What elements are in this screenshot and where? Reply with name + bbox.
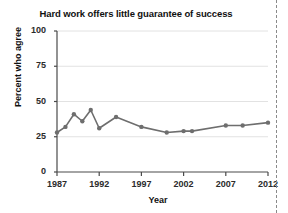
y-tick-label: 75: [20, 60, 46, 70]
x-tick-label: 2002: [167, 179, 201, 189]
x-tick-label: 1992: [82, 179, 116, 189]
data-point-marker: [55, 130, 59, 134]
data-point-marker: [181, 129, 185, 133]
x-tick-label: 1987: [40, 179, 74, 189]
data-point-marker: [72, 112, 76, 116]
x-tick-label: 2007: [209, 179, 243, 189]
data-point-marker: [190, 129, 194, 133]
data-point-marker: [97, 126, 101, 130]
chart-figure: Hard work offers little guarantee of suc…: [0, 0, 288, 213]
data-line: [57, 110, 268, 133]
x-tick-label: 1997: [124, 179, 158, 189]
data-point-marker: [266, 120, 270, 124]
page-edge-dashed-border: [276, 0, 277, 213]
y-axis-label: Percent who agree: [13, 22, 23, 112]
gridlines: [57, 31, 268, 137]
data-point-marker: [240, 123, 244, 127]
y-tick-label: 25: [20, 131, 46, 141]
data-point-marker: [165, 130, 169, 134]
data-point-marker: [80, 119, 84, 123]
data-point-marker: [114, 115, 118, 119]
y-tick-label: 0: [20, 166, 46, 176]
data-point-marker: [139, 125, 143, 129]
data-markers: [55, 108, 270, 135]
y-tick-label: 100: [20, 25, 46, 35]
data-point-marker: [224, 123, 228, 127]
y-tick-label: 50: [20, 96, 46, 106]
x-tick-marks: [57, 172, 268, 176]
data-point-marker: [89, 108, 93, 112]
data-point-marker: [63, 125, 67, 129]
x-tick-label: 2012: [251, 179, 285, 189]
x-axis-label: Year: [57, 195, 259, 205]
